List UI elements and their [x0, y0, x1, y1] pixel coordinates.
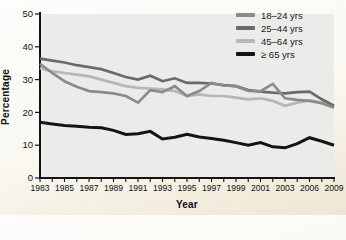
y-tick-label: 40 [22, 41, 33, 52]
x-tick-label: 1985 [55, 183, 74, 193]
x-tick-label: 1987 [79, 183, 98, 193]
y-tick-label: 30 [22, 74, 33, 85]
y-tick-label: 10 [22, 139, 33, 150]
x-tick-label: 2006 [300, 183, 319, 193]
y-tick-label: 20 [22, 107, 33, 118]
legend-label: 25–44 yrs [261, 23, 303, 34]
y-axis: 01020304050 [22, 8, 40, 183]
legend-item: ≥ 65 yrs [236, 49, 303, 59]
legend-item: 18–24 yrs [236, 10, 303, 20]
line-chart-figure: 0102030405019831985198719891991199319951… [0, 0, 346, 215]
x-tick-label: 1983 [30, 183, 49, 193]
x-tick-label: 1989 [104, 183, 123, 193]
y-tick-label: 50 [22, 8, 33, 19]
legend-item: 25–44 yrs [236, 23, 303, 33]
legend-swatch-45-64 [236, 39, 255, 43]
x-tick-label: 2009 [324, 183, 343, 193]
legend-label: 45–64 yrs [261, 36, 303, 47]
legend-swatch-18-24 [236, 13, 255, 17]
x-tick-label: 1993 [153, 183, 172, 193]
y-tick-label: 0 [28, 172, 33, 183]
y-axis-title: Percentage [0, 66, 12, 128]
legend-swatch-25-44 [236, 26, 255, 30]
x-tick-label: 1995 [177, 183, 196, 193]
legend: 18–24 yrs 25–44 yrs 45–64 yrs ≥ 65 yrs [236, 10, 303, 59]
legend-label: 18–24 yrs [261, 10, 303, 21]
x-axis-title: Year [40, 199, 334, 210]
legend-swatch-65-plus [236, 52, 255, 57]
x-tick-label: 2003 [275, 183, 294, 193]
x-tick-label: 1991 [128, 183, 147, 193]
legend-label: ≥ 65 yrs [261, 49, 295, 60]
x-axis: 1983198519871989199119931995199719992001… [30, 178, 343, 193]
legend-item: 45–64 yrs [236, 36, 303, 46]
x-tick-label: 2001 [251, 183, 270, 193]
x-tick-label: 1999 [226, 183, 245, 193]
x-tick-label: 1997 [202, 183, 221, 193]
